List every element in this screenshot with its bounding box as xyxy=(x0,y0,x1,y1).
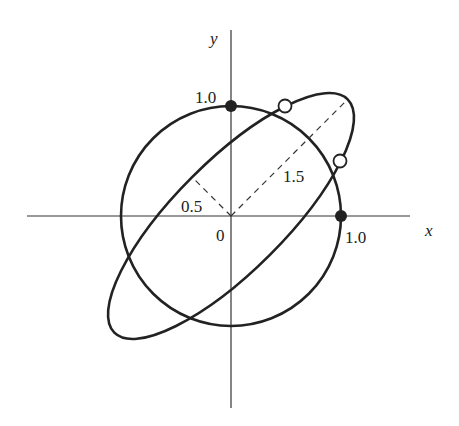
open-point-upper xyxy=(279,100,292,113)
semi-major-label: 1.5 xyxy=(283,167,304,186)
open-point-right xyxy=(334,155,347,168)
x-axis-label: x xyxy=(424,221,433,240)
filled-point-top xyxy=(225,100,237,112)
semi-minor-label: 0.5 xyxy=(181,197,202,216)
circle-right-label: 1.0 xyxy=(345,228,366,247)
circle-top-label: 1.0 xyxy=(195,88,216,107)
origin-label: 0 xyxy=(216,226,225,245)
y-axis-label: y xyxy=(208,29,218,48)
diagram-canvas: y x 0 1.0 1.0 1.5 0.5 xyxy=(0,0,459,426)
semi-major-dashed xyxy=(231,99,348,216)
circle-ellipse-diagram: y x 0 1.0 1.0 1.5 0.5 xyxy=(0,0,459,426)
filled-point-right xyxy=(335,210,347,222)
